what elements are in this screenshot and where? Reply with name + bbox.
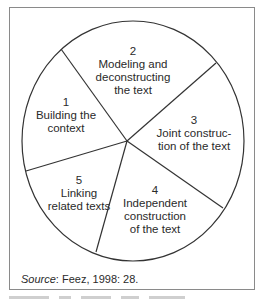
segment-2-label: 2 Modeling and deconstructing the text — [96, 45, 171, 97]
segment-number: 1 — [36, 96, 96, 109]
segment-text-line: Independent — [123, 197, 187, 210]
segment-text-line: related texts — [48, 200, 111, 213]
segment-text-line: the text — [96, 84, 171, 97]
segment-text-line: deconstructing — [96, 71, 171, 84]
segment-3-label: 3 Joint construc- tion of the text — [157, 114, 232, 153]
segment-1-label: 1 Building the context — [36, 96, 96, 135]
segment-text-line: of the text — [123, 223, 187, 236]
segment-text-line: tion of the text — [157, 140, 232, 153]
divider-5-1 — [26, 141, 127, 171]
segment-4-label: 4 Independent construction of the text — [123, 184, 187, 236]
segment-number: 5 — [48, 174, 111, 187]
segment-5-label: 5 Linking related texts — [48, 174, 111, 213]
segment-text-line: Modeling and — [96, 58, 171, 71]
segment-text-line: Building the — [36, 109, 96, 122]
source-label: Source — [21, 273, 56, 285]
source-citation: Source: Feez, 1998: 28. — [21, 273, 138, 285]
segment-number: 3 — [157, 114, 232, 127]
segment-text-line: Linking — [48, 187, 111, 200]
source-text: : Feez, 1998: 28. — [56, 273, 139, 285]
segment-text-line: construction — [123, 210, 187, 223]
segment-text-line: context — [36, 122, 96, 135]
segment-number: 4 — [123, 184, 187, 197]
cut-off-caption — [9, 296, 255, 301]
segment-text-line: Joint construc- — [157, 127, 232, 140]
segment-number: 2 — [96, 45, 171, 58]
